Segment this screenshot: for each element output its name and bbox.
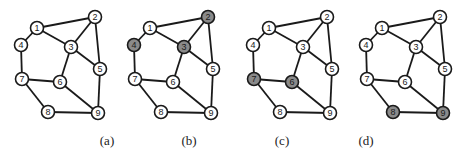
svg-text:3: 3 [68,42,73,52]
graph-node-6: 6 [399,76,412,89]
graph-edge [95,17,100,69]
graph-node-1: 1 [376,22,389,35]
svg-text:4: 4 [250,40,255,50]
svg-text:6: 6 [170,77,175,87]
graph-node-5: 5 [94,63,107,76]
svg-text:4: 4 [18,40,23,50]
graph-node-7: 7 [248,73,261,86]
graph-node-9: 9 [205,107,218,120]
svg-text:7: 7 [19,74,24,84]
svg-text:8: 8 [277,107,282,117]
graph-node-4: 4 [128,39,141,52]
svg-text:1: 1 [266,23,271,33]
graph-node-8: 8 [155,106,168,119]
graph-node-7: 7 [129,73,142,86]
graph-node-9: 9 [324,107,337,120]
graph-node-4: 4 [247,39,260,52]
svg-text:3: 3 [300,42,305,52]
caption-a: (a) [100,133,114,149]
graph-panel-b: 123456789 [128,11,220,120]
svg-text:1: 1 [379,23,384,33]
graph-edge [37,17,95,28]
graph-edge [60,82,98,113]
graph-figure: 123456789123456789123456789123456789 (a)… [0,0,463,157]
graph-edge [173,82,211,113]
graph-node-2: 2 [202,11,215,24]
caption-d: (d) [358,133,373,149]
svg-text:5: 5 [442,64,447,74]
graph-node-1: 1 [144,22,157,35]
graph-node-2: 2 [434,11,447,24]
graph-edge [208,17,213,69]
graph-node-9: 9 [92,107,105,120]
graph-panel-d: 123456789 [360,11,452,120]
graph-node-5: 5 [207,63,220,76]
svg-text:5: 5 [329,64,334,74]
graph-node-7: 7 [16,73,29,86]
graph-node-1: 1 [31,22,44,35]
graph-node-4: 4 [15,39,28,52]
svg-text:6: 6 [402,77,407,87]
graph-edge [48,112,98,113]
svg-text:2: 2 [205,12,210,22]
graph-edge [292,82,330,113]
svg-text:1: 1 [34,23,39,33]
svg-text:2: 2 [437,12,442,22]
svg-text:8: 8 [45,107,50,117]
svg-text:7: 7 [251,74,256,84]
graph-edge [405,82,443,113]
graph-node-8: 8 [42,106,55,119]
graph-edge [440,17,445,69]
svg-text:6: 6 [57,77,62,87]
svg-text:7: 7 [132,74,137,84]
graph-node-6: 6 [167,76,180,89]
svg-text:9: 9 [327,108,332,118]
graph-edge [327,17,332,69]
graph-node-9: 9 [437,107,450,120]
svg-text:7: 7 [364,74,369,84]
graph-node-8: 8 [274,106,287,119]
graph-node-2: 2 [89,11,102,24]
graph-node-3: 3 [410,41,423,54]
graph-node-3: 3 [178,41,191,54]
graph-edge [150,17,208,28]
svg-text:9: 9 [95,108,100,118]
graph-node-8: 8 [387,106,400,119]
graph-node-7: 7 [361,73,374,86]
svg-text:5: 5 [210,64,215,74]
graph-node-5: 5 [326,63,339,76]
graph-edge [280,112,330,113]
svg-text:4: 4 [131,40,136,50]
svg-text:2: 2 [92,12,97,22]
svg-text:3: 3 [413,42,418,52]
caption-b: (b) [181,133,196,149]
graph-node-3: 3 [297,41,310,54]
graph-edge [382,17,440,28]
graph-edge [269,17,327,28]
graph-node-5: 5 [439,63,452,76]
graph-edge [161,112,211,113]
svg-text:1: 1 [147,23,152,33]
svg-text:3: 3 [181,42,186,52]
graph-panel-a: 123456789 [15,11,107,120]
svg-text:8: 8 [390,107,395,117]
svg-text:8: 8 [158,107,163,117]
svg-text:9: 9 [208,108,213,118]
graph-node-6: 6 [286,76,299,89]
svg-text:4: 4 [363,40,368,50]
graph-node-4: 4 [360,39,373,52]
svg-text:5: 5 [97,64,102,74]
graph-node-3: 3 [65,41,78,54]
graph-panels: 123456789123456789123456789123456789 [0,0,463,157]
graph-node-6: 6 [54,76,67,89]
svg-text:9: 9 [440,108,445,118]
svg-text:2: 2 [324,12,329,22]
caption-c: (c) [275,133,289,149]
graph-node-2: 2 [321,11,334,24]
svg-text:6: 6 [289,77,294,87]
graph-panel-c: 123456789 [247,11,339,120]
graph-edge [393,112,443,113]
graph-node-1: 1 [263,22,276,35]
